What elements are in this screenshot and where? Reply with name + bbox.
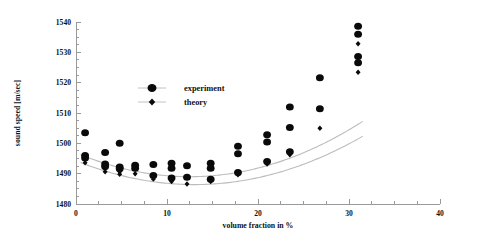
experiment-series-points bbox=[81, 23, 362, 183]
x-tick-label: 30 bbox=[345, 209, 353, 218]
x-tick-label: 0 bbox=[74, 209, 78, 218]
experiment-data-point bbox=[286, 103, 294, 110]
y-tick-label: 1500 bbox=[56, 139, 71, 148]
experiment-data-point bbox=[263, 131, 271, 138]
experiment-data-point bbox=[168, 174, 176, 181]
experiment-data-point bbox=[207, 176, 215, 183]
y-tick-label: 1530 bbox=[56, 48, 71, 57]
x-axis-ticks bbox=[76, 199, 440, 204]
y-axis-title: sound speed [m/sec] bbox=[13, 79, 22, 146]
legend-label: theory bbox=[184, 98, 208, 107]
experiment-data-point bbox=[116, 140, 124, 147]
experiment-data-point bbox=[354, 53, 362, 60]
experiment-data-point bbox=[354, 59, 362, 66]
experiment-data-point bbox=[101, 149, 109, 156]
y-axis-ticks bbox=[76, 22, 81, 204]
experiment-data-point bbox=[81, 129, 89, 136]
experiment-data-point bbox=[234, 169, 242, 176]
axes-group: 010203040 1480149015001510152015301540 bbox=[56, 18, 444, 218]
x-tick-label: 40 bbox=[436, 209, 444, 218]
y-tick-label: 1480 bbox=[56, 200, 71, 209]
theory-data-point bbox=[317, 125, 322, 130]
experiment-data-point bbox=[131, 165, 139, 172]
experiment-data-point bbox=[183, 174, 191, 181]
experiment-data-point bbox=[207, 165, 215, 172]
experiment-data-point bbox=[286, 148, 294, 155]
chart-canvas: 010203040 1480149015001510152015301540 e… bbox=[0, 0, 481, 246]
experiment-data-point bbox=[234, 150, 242, 157]
x-axis-tick-labels: 010203040 bbox=[74, 209, 444, 218]
theory-data-point bbox=[185, 181, 190, 186]
experiment-data-point bbox=[286, 124, 294, 131]
experiment-data-point bbox=[168, 165, 176, 172]
theory-series-points bbox=[83, 41, 361, 187]
experiment-data-point bbox=[149, 161, 157, 168]
experiment-data-point bbox=[149, 172, 157, 179]
experiment-data-point bbox=[263, 158, 271, 165]
experiment-data-point bbox=[316, 105, 324, 112]
y-tick-label: 1520 bbox=[56, 78, 71, 87]
legend-marker-circle bbox=[148, 84, 157, 92]
legend-marker-diamond bbox=[149, 98, 155, 105]
sound-speed-scatter-figure: 010203040 1480149015001510152015301540 e… bbox=[0, 0, 481, 246]
experiment-data-point bbox=[354, 31, 362, 38]
fit-curves-group bbox=[81, 121, 363, 184]
experiment-data-point bbox=[263, 139, 271, 146]
experiment-data-point bbox=[101, 163, 109, 170]
theory-data-point bbox=[356, 70, 361, 75]
y-axis-tick-labels: 1480149015001510152015301540 bbox=[56, 18, 71, 209]
experiment-data-point bbox=[354, 23, 362, 30]
y-tick-label: 1540 bbox=[56, 18, 71, 27]
legend-label: experiment bbox=[184, 84, 225, 93]
y-tick-label: 1490 bbox=[56, 169, 71, 178]
experiment-data-point bbox=[234, 143, 242, 150]
chart-legend: experimenttheory bbox=[138, 84, 225, 107]
y-tick-label: 1510 bbox=[56, 109, 71, 118]
experiment-data-point bbox=[316, 74, 324, 81]
experiment-data-point bbox=[183, 162, 191, 169]
x-axis-title: volume fraction in % bbox=[223, 221, 294, 230]
experiment-data-point bbox=[116, 165, 124, 172]
theory-data-point bbox=[356, 41, 361, 46]
experiment-data-point bbox=[81, 154, 89, 161]
x-tick-label: 20 bbox=[254, 209, 262, 218]
x-tick-label: 10 bbox=[163, 209, 171, 218]
